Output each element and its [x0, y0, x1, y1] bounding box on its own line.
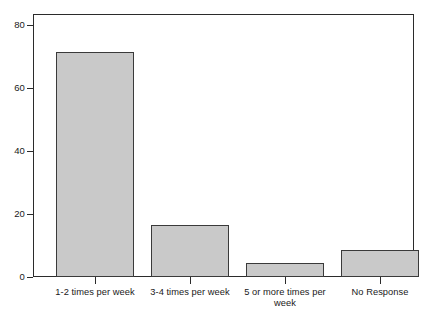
x-tick-label-1: 1-2 times per week — [45, 287, 145, 298]
y-tick-20: 20 — [0, 209, 25, 219]
bar-2 — [151, 225, 229, 277]
y-tick-60: 60 — [0, 83, 25, 93]
x-tick-label-4: No Response — [330, 287, 430, 298]
x-tick-label-3: 5 or more times per week — [239, 287, 331, 309]
x-tick-mark-4 — [380, 277, 381, 284]
x-tick-label-2: 3-4 times per week — [140, 287, 240, 298]
y-tick-label-60: 60 — [1, 83, 25, 93]
y-tick-40: 40 — [0, 146, 25, 156]
bars-layer — [33, 14, 414, 277]
y-tick-0: 0 — [0, 272, 25, 282]
y-tick-label-0: 0 — [1, 272, 25, 282]
x-tick-mark-2 — [190, 277, 191, 284]
y-tick-label-80: 80 — [1, 20, 25, 30]
bar-chart: 0 20 40 60 80 1-2 times per week 3-4 tim… — [0, 0, 430, 313]
y-tick-label-20: 20 — [1, 209, 25, 219]
bar-4 — [341, 250, 419, 277]
bar-1 — [56, 52, 134, 277]
y-tick-label-40: 40 — [1, 146, 25, 156]
x-tick-mark-3 — [285, 277, 286, 284]
y-tick-mark-0 — [27, 277, 33, 278]
y-tick-80: 80 — [0, 20, 25, 30]
x-tick-mark-1 — [95, 277, 96, 284]
bar-3 — [246, 263, 324, 277]
